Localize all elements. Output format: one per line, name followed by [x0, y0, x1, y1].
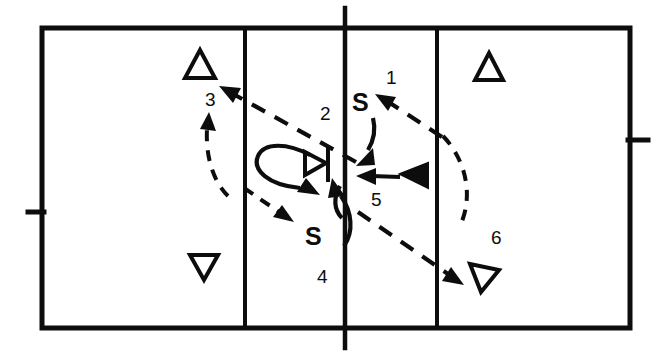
- step-label-6: 6: [491, 228, 502, 247]
- step-label-5: 5: [371, 190, 382, 209]
- movement-path-5: [358, 212, 448, 274]
- movement-path-3-arrowhead: [200, 112, 216, 131]
- player-marker-triangle-down-right: [470, 264, 499, 292]
- ball-carrier-triangle-left-filled: [400, 163, 428, 188]
- player-marker-triangle-down-left: [190, 255, 218, 280]
- movement-path-9-arrowhead: [273, 205, 294, 222]
- movement-path-7: [368, 118, 374, 150]
- court-outline: [42, 28, 630, 328]
- movement-path-2: [235, 95, 356, 162]
- movement-path-8: [372, 176, 400, 177]
- movement-loop-solid: [257, 146, 310, 188]
- setter-label-front: S: [352, 90, 369, 115]
- player-marker-triangle-up-left: [185, 50, 215, 78]
- movement-path-1-arrowhead: [375, 94, 396, 111]
- movement-path-1: [390, 103, 442, 137]
- step-label-2: 2: [320, 104, 331, 123]
- movement-path-9: [244, 188, 282, 214]
- setter-label-back: S: [305, 224, 322, 249]
- step-label-4: 4: [317, 267, 328, 286]
- movement-path-8-arrowhead: [356, 168, 376, 185]
- movement-loop-arrowhead: [297, 178, 320, 195]
- movement-path-6-arc: [443, 136, 467, 226]
- player-marker-triangle-up-right: [475, 53, 503, 80]
- movement-path-7-arrowhead: [356, 148, 375, 166]
- step-label-1: 1: [386, 68, 397, 87]
- step-label-3: 3: [205, 90, 216, 109]
- volleyball-court-diagram: 1 2 3 4 5 6 S S: [0, 0, 672, 356]
- court-svg-canvas: [0, 0, 672, 356]
